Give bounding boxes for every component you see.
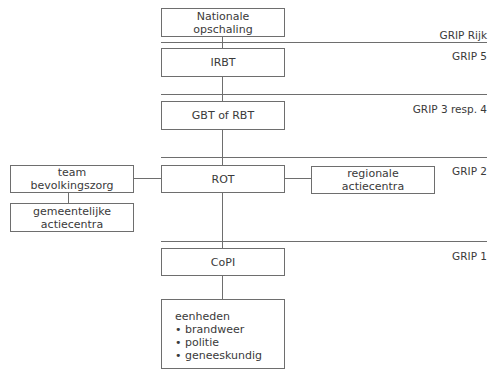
box-title: eenheden: [175, 310, 230, 323]
box-eenheden: eenheden brandweer politie geneeskundig: [161, 299, 285, 369]
box-nationale-opschaling: Nationale opschaling: [161, 8, 285, 37]
list-item-brandweer: brandweer: [175, 323, 262, 336]
level-separator-grip-2: [161, 241, 487, 242]
list-item-politie: politie: [175, 336, 262, 349]
grip-label-1: GRIP 1: [452, 250, 487, 262]
box-label: IRBT: [210, 56, 235, 69]
box-label: CoPI: [211, 256, 235, 269]
box-label-line1: team: [58, 166, 87, 179]
grip-label-5: GRIP 5: [452, 50, 487, 62]
connector-gbt-rot: [222, 129, 223, 165]
box-label-line1: regionale: [347, 167, 398, 180]
box-label-line2: opschaling: [193, 23, 252, 36]
connector-irbt-gbt: [222, 76, 223, 101]
box-label-line1: gemeentelijke: [33, 205, 111, 218]
box-label: ROT: [211, 173, 234, 186]
box-label-line2: actiecentra: [342, 180, 404, 193]
eenheden-list: brandweer politie geneeskundig: [175, 323, 262, 362]
connector-team-gemeentelijk: [68, 192, 69, 203]
box-label: GBT of RBT: [192, 109, 254, 122]
connector-rot-copi: [222, 192, 223, 248]
level-separator-grip-3-4: [161, 157, 487, 158]
box-regionale-actiecentra: regionale actiecentra: [311, 166, 435, 194]
grip-label-3-4: GRIP 3 resp. 4: [413, 103, 487, 115]
connector-rot-regionaal: [285, 178, 311, 179]
box-team-bevolkingszorg: team bevolkingszorg: [10, 165, 134, 193]
grip-label-rijk: GRIP Rijk: [440, 29, 487, 41]
grip-label-2: GRIP 2: [452, 165, 487, 177]
connector-copi-eenheden: [222, 275, 223, 299]
box-label-line2: actiecentra: [41, 218, 103, 231]
connector-nationale-irbt: [222, 36, 223, 48]
box-rot: ROT: [161, 165, 285, 193]
box-copi: CoPI: [161, 248, 285, 276]
box-label-line2: bevolkingszorg: [31, 179, 114, 192]
box-label-line1: Nationale: [197, 10, 250, 23]
level-separator-grip-5: [161, 94, 487, 95]
connector-team-rot: [134, 178, 161, 179]
box-irbt: IRBT: [161, 48, 285, 77]
box-gbt-rbt: GBT of RBT: [161, 101, 285, 130]
list-item-geneeskundig: geneeskundig: [175, 349, 262, 362]
box-gemeentelijke-actiecentra: gemeentelijke actiecentra: [10, 203, 134, 232]
level-separator-grip-rijk: [161, 42, 487, 43]
